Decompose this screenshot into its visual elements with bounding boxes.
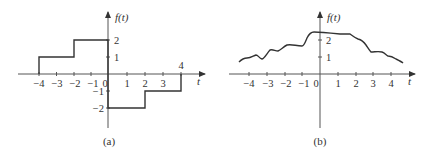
x-tick-label: −2 xyxy=(280,78,291,89)
caption-a: (a) xyxy=(103,135,116,148)
x-tick-label: 1 xyxy=(335,78,340,89)
x-tick-label: 3 xyxy=(160,78,165,89)
x-tick-label: −2 xyxy=(69,78,80,89)
y-axis-label: f(t) xyxy=(115,11,129,24)
x-tick-label: −1 xyxy=(298,78,309,89)
y-tick-label: −2 xyxy=(93,103,104,114)
x-tick-label: 2 xyxy=(142,78,147,89)
annotation-4: 4 xyxy=(178,60,184,71)
x-axis-label: t xyxy=(408,75,412,87)
y-tick-label: −1 xyxy=(93,86,104,97)
x-tick-label: 0 xyxy=(313,78,318,89)
y-axis-label: f(t) xyxy=(327,11,341,24)
x-axis-label: t xyxy=(197,75,201,87)
y-tick-label: 2 xyxy=(326,35,331,46)
y-tick-label: 1 xyxy=(114,52,119,63)
x-tick-label: −4 xyxy=(33,78,45,89)
x-tick-label: 4 xyxy=(388,78,394,89)
x-tick-label: 2 xyxy=(353,78,358,89)
x-tick-label: 3 xyxy=(370,78,375,89)
x-tick-label: −3 xyxy=(51,78,62,89)
figure-canvas: −4 −3 −2 −1 0 1 2 3 2 1 −1 −2 f(t) t 4 (… xyxy=(0,0,427,159)
y-tick-label: 2 xyxy=(114,35,119,46)
panel-a: −4 −3 −2 −1 0 1 2 3 2 1 −1 −2 f(t) t 4 (… xyxy=(18,11,205,148)
x-tick-label: 1 xyxy=(124,78,129,89)
panel-b: −4 −3 −2 −1 0 1 2 3 4 2 1 f(t) t (b) xyxy=(229,11,415,148)
x-tick-label: −4 xyxy=(243,78,255,89)
signal-curve xyxy=(239,32,403,63)
caption-b: (b) xyxy=(314,135,327,148)
x-tick-label: −3 xyxy=(262,78,273,89)
y-tick-label: 1 xyxy=(326,52,331,63)
